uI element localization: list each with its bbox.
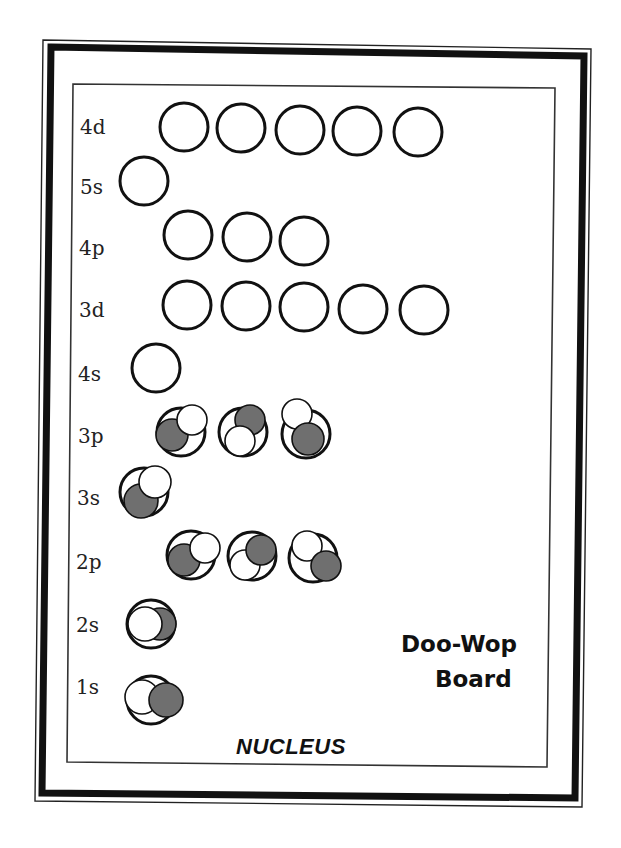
orbital-1s-1[interactable] (125, 676, 183, 724)
electron-gray-token[interactable] (149, 683, 183, 717)
orbital-4p-3[interactable] (280, 217, 328, 265)
orbital-4d-1[interactable] (160, 103, 208, 151)
electron-gray-token[interactable] (246, 535, 276, 565)
orbital-5s-1[interactable] (120, 157, 168, 205)
energy-level-5s: 5s (80, 157, 168, 205)
orbital-3d-3[interactable] (280, 283, 328, 331)
orbital-3d-5[interactable] (400, 286, 448, 334)
energy-level-4s: 4s (78, 344, 180, 392)
level-label: 2p (76, 550, 102, 574)
electron-white-token[interactable] (128, 607, 162, 641)
orbital-3d-1[interactable] (163, 281, 211, 329)
orbital-3s-1[interactable] (120, 466, 171, 518)
orbital-3p-2[interactable] (219, 405, 267, 456)
orbital-circle[interactable] (120, 157, 168, 205)
electron-gray-token[interactable] (292, 423, 324, 455)
orbital-4d-5[interactable] (394, 108, 442, 156)
orbital-circle[interactable] (160, 103, 208, 151)
energy-level-3d: 3d (79, 281, 448, 334)
orbital-4d-3[interactable] (276, 106, 324, 154)
orbital-4p-1[interactable] (164, 211, 212, 259)
orbital-circle[interactable] (132, 344, 180, 392)
orbital-4d-4[interactable] (333, 107, 381, 155)
energy-level-4d: 4d (80, 103, 442, 156)
orbital-circle[interactable] (400, 286, 448, 334)
orbital-circle[interactable] (222, 282, 270, 330)
orbital-circle[interactable] (164, 211, 212, 259)
level-label: 4p (79, 236, 105, 260)
orbital-2p-1[interactable] (167, 531, 220, 579)
electron-white-token[interactable] (190, 533, 220, 563)
orbital-circle[interactable] (333, 107, 381, 155)
energy-level-4p: 4p (79, 211, 328, 265)
doo-wop-board: 4d5s4p3d4s3p3s2p2s1s Doo-Wop Board NUCLE… (0, 0, 621, 848)
board-title-line1: Doo-Wop (401, 631, 517, 657)
orbital-4p-2[interactable] (223, 213, 271, 261)
orbital-4s-1[interactable] (132, 344, 180, 392)
orbital-2p-2[interactable] (228, 532, 276, 580)
level-label: 4s (78, 362, 101, 386)
orbital-2p-3[interactable] (289, 531, 341, 582)
level-label: 2s (76, 613, 99, 637)
energy-level-3p: 3p (78, 399, 330, 458)
orbital-circle[interactable] (394, 108, 442, 156)
orbital-3d-2[interactable] (222, 282, 270, 330)
level-label: 4d (80, 115, 106, 139)
board-title-line2: Board (435, 666, 512, 692)
level-label: 3s (77, 486, 100, 510)
orbital-circle[interactable] (339, 285, 387, 333)
orbital-3p-1[interactable] (156, 405, 207, 456)
electron-gray-token[interactable] (311, 551, 341, 581)
electron-white-token[interactable] (177, 405, 207, 435)
orbital-circle[interactable] (217, 104, 265, 152)
level-label: 3p (78, 424, 104, 448)
nucleus-label: NUCLEUS (236, 734, 346, 759)
orbital-3d-4[interactable] (339, 285, 387, 333)
energy-level-3s: 3s (77, 466, 171, 518)
energy-level-1s: 1s (76, 675, 183, 724)
electron-white-token[interactable] (225, 426, 255, 456)
orbital-circle[interactable] (276, 106, 324, 154)
orbital-circle[interactable] (223, 213, 271, 261)
energy-level-2p: 2p (76, 531, 341, 582)
level-label: 5s (80, 175, 103, 199)
orbital-circle[interactable] (280, 283, 328, 331)
orbital-2s-1[interactable] (127, 600, 176, 648)
energy-levels: 4d5s4p3d4s3p3s2p2s1s (76, 103, 448, 724)
orbital-3p-3[interactable] (282, 399, 330, 458)
energy-level-2s: 2s (76, 600, 176, 648)
level-label: 1s (76, 675, 99, 699)
orbital-circle[interactable] (163, 281, 211, 329)
electron-white-token[interactable] (139, 466, 171, 498)
level-label: 3d (79, 298, 105, 322)
orbital-4d-2[interactable] (217, 104, 265, 152)
orbital-circle[interactable] (280, 217, 328, 265)
